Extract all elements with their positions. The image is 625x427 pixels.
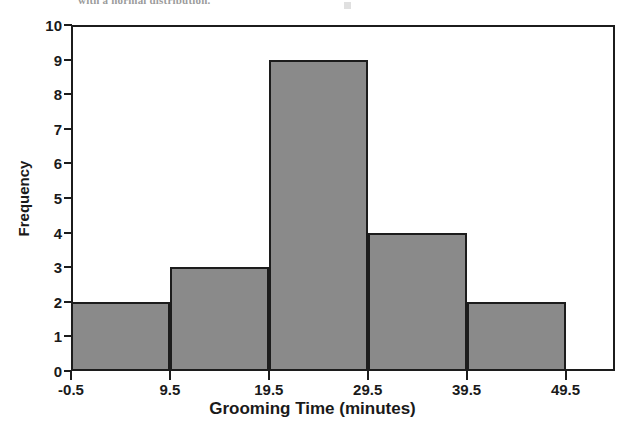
x-axis-tick-label: 29.5 [353, 381, 382, 398]
scan-artifact [344, 2, 351, 9]
x-axis-tick-label: 39.5 [452, 381, 481, 398]
x-axis-tick [268, 371, 270, 380]
y-axis-tick-label: 8 [22, 87, 62, 102]
y-axis-tick [64, 266, 72, 268]
y-axis-tick [64, 232, 72, 234]
x-axis-tick [565, 371, 567, 380]
x-axis-tick-label: 49.5 [551, 381, 580, 398]
y-axis-tick [64, 162, 72, 164]
y-axis-tick [64, 128, 72, 130]
x-axis-tick-label: 19.5 [254, 381, 283, 398]
histogram-figure: with a normal distribution. 012345678910… [0, 0, 625, 427]
x-axis-tick [466, 371, 468, 380]
plot-frame [71, 25, 615, 371]
y-axis-tick [64, 197, 72, 199]
y-axis-tick [64, 59, 72, 61]
y-axis-tick-label: 1 [22, 329, 62, 344]
x-axis-tick-label: 9.5 [159, 381, 180, 398]
y-axis-tick-label: 7 [22, 122, 62, 137]
cropped-caption-text: with a normal distribution. [78, 0, 338, 5]
y-axis-tick [64, 335, 72, 337]
y-axis-tick-label: 0 [22, 364, 62, 379]
x-axis-tick-label: -0.5 [58, 381, 84, 398]
y-axis-tick [64, 93, 72, 95]
y-axis-tick [64, 24, 72, 26]
y-axis-tick-label: 10 [22, 18, 62, 33]
y-axis-tick-label: 9 [22, 53, 62, 68]
y-axis-tick-label: 2 [22, 295, 62, 310]
x-axis-tick [169, 371, 171, 380]
y-axis-tick-label: 3 [22, 260, 62, 275]
x-axis-tick [367, 371, 369, 380]
x-axis-tick [70, 371, 72, 380]
y-axis-tick [64, 301, 72, 303]
x-axis-title: Grooming Time (minutes) [0, 399, 625, 419]
y-axis-title: Frequency [15, 154, 32, 244]
